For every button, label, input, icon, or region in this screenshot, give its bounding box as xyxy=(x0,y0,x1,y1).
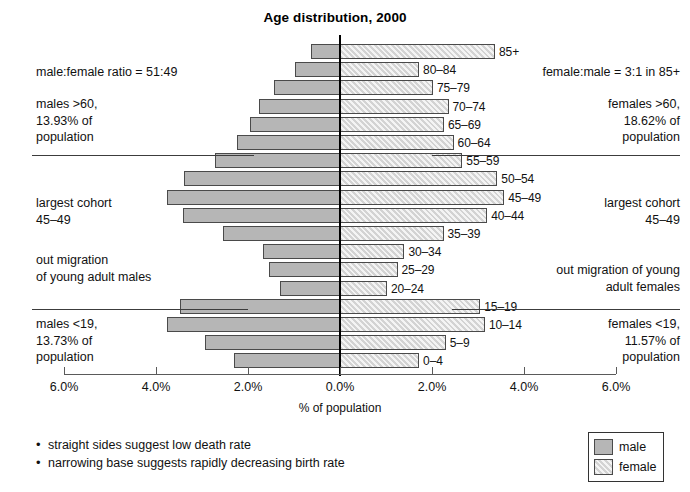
list-item: • narrowing base suggests rapidly decrea… xyxy=(36,454,345,472)
x-axis-title: % of population xyxy=(240,401,440,415)
x-axis-tick-label: 6.0% xyxy=(586,380,646,394)
bar-male-20-24 xyxy=(280,281,340,296)
bar-female-10-14 xyxy=(340,317,485,332)
annotation-largest-cohort-female: largest cohort 45–49 xyxy=(490,195,680,228)
bar-female-60-64 xyxy=(340,135,454,150)
age-group-label: 75–79 xyxy=(437,81,470,96)
bar-male-75-79 xyxy=(274,80,340,95)
legend-label-male: male xyxy=(619,440,646,454)
bar-female-15-19 xyxy=(340,299,480,314)
bar-female-5-9 xyxy=(340,335,446,350)
bullet-icon: • xyxy=(36,454,48,472)
bar-male-65-69 xyxy=(250,117,340,132)
legend-item-male: male xyxy=(594,437,657,457)
bar-male-0-4 xyxy=(234,353,340,368)
x-axis-tick-label: 4.0% xyxy=(494,380,554,394)
notes-list: • straight sides suggest low death rate … xyxy=(36,436,345,472)
age-group-label: 5–9 xyxy=(450,336,470,351)
x-axis-tick xyxy=(64,367,65,374)
bar-female-25-29 xyxy=(340,262,398,277)
bar-female-20-24 xyxy=(340,281,387,296)
x-axis-tick xyxy=(340,367,341,374)
divider-upper-left xyxy=(32,155,254,156)
age-group-label: 30–34 xyxy=(408,245,441,260)
legend-item-female: female xyxy=(594,457,657,477)
chart-legend: male female xyxy=(588,432,664,482)
legend-swatch-male-icon xyxy=(594,439,613,455)
annotation-males-under-19: males <19, 13.73% of population xyxy=(36,316,216,366)
age-group-label: 35–39 xyxy=(448,227,481,242)
bar-female-30-34 xyxy=(340,244,404,259)
bar-male-50-54 xyxy=(184,171,340,186)
bar-male-5-9 xyxy=(205,335,340,350)
bar-female-70-74 xyxy=(340,99,449,114)
legend-swatch-female-icon xyxy=(594,459,613,475)
age-group-label: 20–24 xyxy=(391,282,424,297)
bar-male-35-39 xyxy=(223,226,340,241)
note-text: narrowing base suggests rapidly decreasi… xyxy=(48,454,345,472)
annotation-female-male-ratio: female:male = 3:1 in 85+ xyxy=(428,64,680,81)
x-axis-tick-label: 4.0% xyxy=(126,380,186,394)
x-axis-tick xyxy=(524,367,525,374)
annotation-females-over-60: females >60, 18.62% of population xyxy=(500,96,680,146)
bar-male-80-84 xyxy=(295,62,340,77)
annotation-females-under-19: females <19, 11.57% of population xyxy=(500,316,680,366)
bar-male-85+ xyxy=(311,44,340,59)
bar-female-75-79 xyxy=(340,80,433,95)
population-pyramid-figure: Age distribution, 2000 85+80–8475–7970–7… xyxy=(0,0,690,492)
annotation-out-migration-male: out migration of young adult males xyxy=(36,252,251,285)
x-axis-line xyxy=(64,374,616,375)
divider-lower-right xyxy=(452,309,680,310)
age-group-label: 15–19 xyxy=(484,300,517,315)
note-text: straight sides suggest low death rate xyxy=(48,436,251,454)
x-axis-tick-label: 0.0% xyxy=(310,380,370,394)
age-group-label: 85+ xyxy=(499,45,519,60)
age-group-label: 50–54 xyxy=(501,172,534,187)
annotation-males-over-60: males >60, 13.93% of population xyxy=(36,96,216,146)
x-axis-tick-label: 6.0% xyxy=(34,380,94,394)
x-axis-tick xyxy=(616,367,617,374)
x-axis-tick-label: 2.0% xyxy=(402,380,462,394)
bar-female-0-4 xyxy=(340,353,419,368)
bar-female-50-54 xyxy=(340,171,497,186)
bar-female-40-44 xyxy=(340,208,487,223)
bar-male-70-74 xyxy=(259,99,340,114)
divider-lower-left xyxy=(32,309,248,310)
bullet-icon: • xyxy=(36,436,48,454)
bar-female-80-84 xyxy=(340,62,419,77)
annotation-largest-cohort-male: largest cohort 45–49 xyxy=(36,195,236,228)
age-group-label: 25–29 xyxy=(402,263,435,278)
bar-female-35-39 xyxy=(340,226,444,241)
bar-female-65-69 xyxy=(340,117,444,132)
age-group-label: 60–64 xyxy=(458,136,491,151)
legend-label-female: female xyxy=(619,460,657,474)
list-item: • straight sides suggest low death rate xyxy=(36,436,345,454)
bar-female-45-49 xyxy=(340,190,504,205)
bar-male-30-34 xyxy=(263,244,340,259)
bar-male-60-64 xyxy=(237,135,340,150)
bar-female-85+ xyxy=(340,44,495,59)
x-axis-tick-label: 2.0% xyxy=(218,380,278,394)
age-group-label: 70–74 xyxy=(453,100,486,115)
age-group-label: 65–69 xyxy=(448,118,481,133)
annotation-male-female-ratio: male:female ratio = 51:49 xyxy=(36,64,256,81)
bar-male-25-29 xyxy=(269,262,340,277)
x-axis-tick xyxy=(156,367,157,374)
annotation-out-migration-female: out migration of young adult females xyxy=(450,262,680,295)
divider-upper-right xyxy=(432,155,680,156)
x-axis-tick xyxy=(248,367,249,374)
age-group-label: 55–59 xyxy=(466,154,499,169)
center-axis-line xyxy=(339,35,341,376)
bar-male-15-19 xyxy=(180,299,340,314)
x-axis-tick xyxy=(432,367,433,374)
